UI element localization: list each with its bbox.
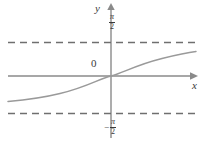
fraction-numerator: π xyxy=(109,13,115,21)
fraction-numerator: π xyxy=(110,118,116,126)
minus-sign: − xyxy=(104,123,109,132)
graph-canvas xyxy=(0,0,204,142)
fraction-pi-over-2-negative: π 2 xyxy=(110,118,116,137)
x-axis-label: x xyxy=(192,80,197,91)
fraction-denominator: 2 xyxy=(110,128,116,136)
fraction-denominator: 2 xyxy=(109,23,115,31)
asymptote-label-negative-pi-over-2: − π 2 xyxy=(104,118,116,137)
y-axis-arrow-icon xyxy=(107,3,114,10)
function-graph-figure: y x 0 π 2 − π 2 xyxy=(0,0,204,142)
fraction-pi-over-2: π 2 xyxy=(109,13,115,32)
origin-label: 0 xyxy=(91,58,97,69)
y-axis-label: y xyxy=(95,3,100,14)
asymptote-label-positive-pi-over-2: π 2 xyxy=(109,13,115,32)
